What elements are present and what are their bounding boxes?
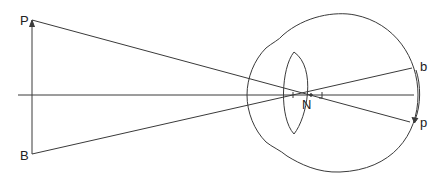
nodal-point-dot — [310, 94, 313, 97]
ray-P-to-p — [32, 20, 410, 122]
label-image-top-b: b — [420, 60, 427, 73]
object-arrowhead — [30, 20, 35, 27]
label-image-bottom-p: p — [420, 116, 427, 129]
image-arrow-arc — [415, 70, 420, 120]
label-nodal-point-N: N — [302, 98, 311, 111]
eyeball-outline — [247, 14, 418, 172]
label-object-bottom-B: B — [20, 149, 29, 162]
ray-B-to-b — [32, 68, 412, 154]
label-object-top-P: P — [20, 14, 29, 27]
image-arrowhead — [412, 117, 418, 123]
eye-optics-diagram — [0, 0, 446, 181]
